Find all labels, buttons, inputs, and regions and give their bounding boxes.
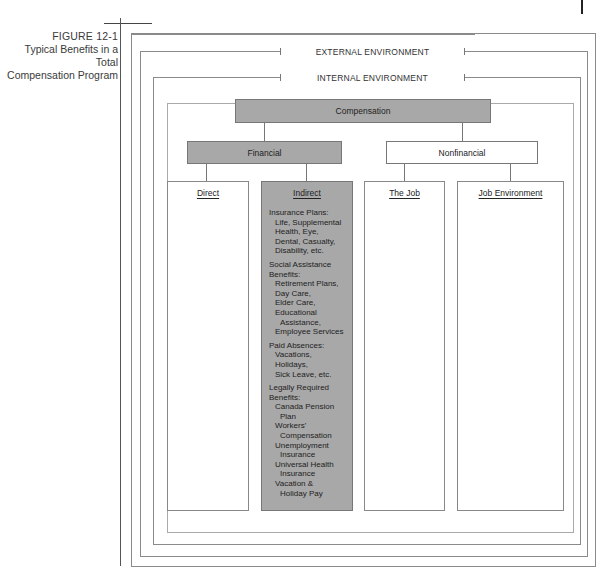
benefit-item: Employee Services [269, 327, 348, 337]
benefit-item-line: Compensation [275, 431, 348, 441]
financial-node: Financial [187, 141, 342, 164]
figure-title-line-2: Compensation Program [0, 69, 118, 82]
compensation-label: Compensation [336, 106, 391, 116]
benefit-item: Plan [269, 412, 348, 422]
job-environment-title: Job Environment [458, 188, 563, 198]
benefit-item: Retirement Plans,Day Care,Elder Care,Edu… [269, 279, 348, 317]
page-corner-mark [581, 0, 583, 14]
benefit-item: Compensation [269, 431, 348, 441]
direct-title: Direct [168, 188, 248, 198]
benefit-item-line: Holiday Pay [275, 489, 348, 499]
the-job-title: The Job [365, 188, 444, 198]
external-right-tick [464, 48, 465, 55]
benefit-group-heading: Legally Required [269, 383, 348, 393]
benefit-item-line: Vacation & [275, 479, 348, 489]
benefit-item-line: Day Care, [275, 289, 348, 299]
external-environment-label-wrap: EXTERNAL ENVIRONMENT [280, 45, 465, 58]
benefit-item-line: Educational [275, 308, 348, 318]
the-job-box: The Job [364, 181, 445, 511]
benefit-group-heading: Insurance Plans: [269, 208, 348, 218]
benefit-item-line: Insurance [275, 450, 348, 460]
benefit-item-line: Health, Eye, [275, 227, 348, 237]
benefit-item: Assistance, [269, 318, 348, 328]
connector-financial-indirect [306, 164, 307, 181]
connector-root-financial [264, 123, 265, 141]
benefit-item-line: Elder Care, [275, 298, 348, 308]
external-environment-label: EXTERNAL ENVIRONMENT [308, 47, 438, 57]
connector-nonfinancial-jobenv [510, 164, 511, 181]
compensation-node: Compensation [235, 99, 491, 123]
job-environment-box: Job Environment [457, 181, 564, 511]
benefit-group-heading: Benefits: [269, 270, 348, 280]
internal-right-tick [464, 74, 465, 81]
nonfinancial-label: Nonfinancial [439, 148, 486, 158]
benefit-item: Insurance [269, 450, 348, 460]
internal-environment-label: INTERNAL ENVIRONMENT [309, 73, 436, 83]
benefit-group: Paid Absences:Vacations,Holidays,Sick Le… [269, 341, 348, 379]
benefit-item-line: Vacations, [275, 350, 348, 360]
benefit-group: Insurance Plans:Life, SupplementalHealth… [269, 208, 348, 256]
nonfinancial-node: Nonfinancial [386, 141, 538, 164]
internal-left-tick [280, 74, 281, 81]
benefit-item-line: Plan [275, 412, 348, 422]
benefit-item-line: Retirement Plans, [275, 279, 348, 289]
benefit-item-line: Assistance, [275, 318, 348, 328]
benefit-item: Workers' [269, 421, 348, 431]
indirect-title: Indirect [262, 188, 352, 198]
benefit-group-heading: Social Assistance [269, 260, 348, 270]
figure-caption: FIGURE 12-1 Typical Benefits in a Total … [0, 30, 118, 82]
connector-root-nonfinancial [462, 123, 463, 141]
caption-vertical-rule [120, 18, 121, 566]
benefit-item-line: Holidays, [275, 360, 348, 370]
financial-label: Financial [247, 148, 281, 158]
benefit-item-line: Employee Services [275, 327, 348, 337]
direct-box: Direct [167, 181, 249, 511]
benefit-group-heading: Paid Absences: [269, 341, 348, 351]
benefit-item: Vacations,Holidays,Sick Leave, etc. [269, 350, 348, 379]
external-left-tick [280, 48, 281, 55]
connector-nonfinancial-job [404, 164, 405, 181]
benefit-item-line: Canada Pension [275, 402, 348, 412]
benefit-group: Social AssistanceBenefits:Retirement Pla… [269, 260, 348, 337]
figure-title-line-1: Typical Benefits in a Total [0, 43, 118, 69]
figure-number: FIGURE 12-1 [0, 30, 118, 43]
benefit-item-line: Workers' [275, 421, 348, 431]
caption-top-rule [104, 23, 152, 24]
benefit-item-line: Insurance [275, 469, 348, 479]
benefit-item-line: Life, Supplemental [275, 218, 348, 228]
benefit-item-line: Unemployment [275, 441, 348, 451]
benefit-item: Canada Pension [269, 402, 348, 412]
indirect-box: Indirect Insurance Plans:Life, Supplemen… [261, 181, 353, 511]
benefit-item: Life, SupplementalHealth, Eye,Dental, Ca… [269, 218, 348, 256]
benefit-item-line: Universal Health [275, 460, 348, 470]
benefit-item-line: Dental, Casualty, [275, 237, 348, 247]
connector-financial-direct [206, 164, 207, 181]
benefit-item: Vacation & [269, 479, 348, 489]
benefit-item-line: Sick Leave, etc. [275, 370, 348, 380]
benefit-item: Insurance [269, 469, 348, 479]
indirect-benefits-list: Insurance Plans:Life, SupplementalHealth… [262, 208, 352, 498]
benefit-item-line: Disability, etc. [275, 246, 348, 256]
benefit-item: Unemployment [269, 441, 348, 451]
benefit-group-heading: Benefits: [269, 393, 348, 403]
benefit-item: Holiday Pay [269, 489, 348, 499]
benefit-item: Universal Health [269, 460, 348, 470]
benefit-group: Legally RequiredBenefits:Canada PensionP… [269, 383, 348, 498]
internal-environment-label-wrap: INTERNAL ENVIRONMENT [280, 71, 465, 84]
